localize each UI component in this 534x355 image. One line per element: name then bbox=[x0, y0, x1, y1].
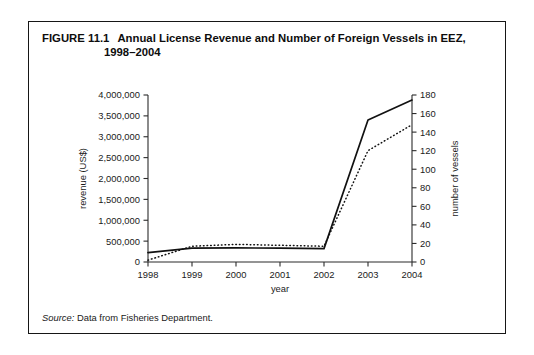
y-axis-tick-label: 1,500,000 bbox=[98, 194, 140, 205]
source-label: Source: bbox=[42, 312, 74, 323]
y-axis-tick-label: 3,000,000 bbox=[98, 131, 140, 142]
x-axis-tick-label: 2000 bbox=[226, 269, 247, 280]
source-note: Source: Data from Fisheries Department. bbox=[42, 312, 213, 323]
y-axis-tick-label: 0 bbox=[135, 256, 140, 267]
y2-axis-tick-label: 120 bbox=[420, 145, 436, 156]
y2-axis-tick-label: 0 bbox=[420, 256, 425, 267]
y2-axis-tick-label: 180 bbox=[420, 89, 436, 100]
y-axis-tick-label: 500,000 bbox=[106, 236, 140, 247]
figure-container: FIGURE 11.1Annual License Revenue and Nu… bbox=[28, 21, 506, 334]
y-axis-tick-label: 2,000,000 bbox=[98, 173, 140, 184]
x-axis-tick-label: 1999 bbox=[182, 269, 203, 280]
x-axis-title: year bbox=[271, 283, 289, 294]
y2-axis-title: number of vessels bbox=[449, 140, 460, 216]
y2-axis-tick-label: 40 bbox=[420, 219, 430, 230]
y2-axis-tick-label: 140 bbox=[420, 127, 436, 138]
chart-plot-area: 0500,0001,000,0001,500,0002,000,0002,500… bbox=[29, 58, 507, 296]
y2-axis-tick-label: 80 bbox=[420, 182, 430, 193]
figure-title-line2: 1998–2004 bbox=[42, 46, 161, 58]
y-axis-tick-label: 2,500,000 bbox=[98, 152, 140, 163]
y-axis-tick-label: 3,500,000 bbox=[98, 110, 140, 121]
series-line-revenue bbox=[148, 100, 412, 253]
x-axis-tick-label: 2001 bbox=[270, 269, 291, 280]
series-line-vessels bbox=[148, 125, 412, 260]
y2-axis-tick-label: 100 bbox=[420, 164, 436, 175]
y2-axis-tick-label: 160 bbox=[420, 108, 436, 119]
y-axis-title: revenue (US$) bbox=[77, 148, 88, 209]
line-chart: 0500,0001,000,0001,500,0002,000,0002,500… bbox=[29, 58, 507, 296]
y-axis-tick-label: 4,000,000 bbox=[98, 89, 140, 100]
y2-axis-tick-label: 60 bbox=[420, 201, 430, 212]
figure-title: FIGURE 11.1Annual License Revenue and Nu… bbox=[42, 31, 492, 46]
figure-number: FIGURE 11.1 bbox=[42, 32, 109, 44]
x-axis-tick-label: 2004 bbox=[402, 269, 423, 280]
x-axis-tick-label: 1998 bbox=[138, 269, 159, 280]
x-axis-tick-label: 2002 bbox=[314, 269, 335, 280]
figure-title-line1: Annual License Revenue and Number of For… bbox=[117, 32, 465, 44]
source-text: Data from Fisheries Department. bbox=[77, 312, 213, 323]
y2-axis-tick-label: 20 bbox=[420, 238, 430, 249]
y-axis-tick-label: 1,000,000 bbox=[98, 215, 140, 226]
x-axis-tick-label: 2003 bbox=[358, 269, 379, 280]
